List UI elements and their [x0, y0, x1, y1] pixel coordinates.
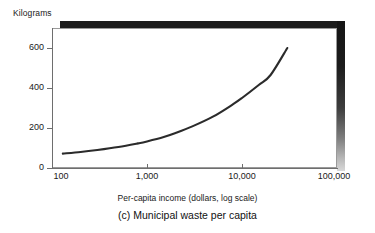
chart-figure: Kilograms 0200400600 1001,00010,000100,0… [0, 0, 375, 233]
x-axis-title: Per-capita income (dollars, log scale) [0, 193, 375, 203]
plot-area [52, 28, 337, 168]
y-axis-tick [47, 48, 52, 49]
x-axis-tick [147, 164, 148, 169]
frame-shadow-right [337, 21, 345, 171]
y-axis-tick [47, 88, 52, 89]
y-axis-tick-label: 0 [39, 163, 44, 172]
y-axis-tick [47, 128, 52, 129]
x-axis-tick-label: 100,000 [318, 172, 351, 181]
y-axis-unit-label: Kilograms [13, 8, 52, 18]
x-axis-tick-label: 10,000 [228, 172, 256, 181]
x-axis-line [52, 168, 338, 169]
y-axis-tick-label: 400 [29, 83, 44, 92]
panel-caption: (c) Municipal waste per capita [0, 209, 375, 221]
y-axis-tick-label: 600 [29, 43, 44, 52]
y-axis-line [52, 28, 53, 169]
x-axis-tick-label: 1,000 [136, 172, 159, 181]
y-axis-tick [47, 168, 52, 169]
x-axis-tick-label: 100 [53, 172, 68, 181]
y-axis-tick-label: 200 [29, 123, 44, 132]
x-axis-tick [242, 164, 243, 169]
